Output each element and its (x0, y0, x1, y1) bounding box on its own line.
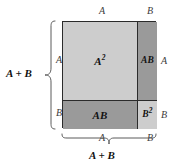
dimension-label-bottom-b: B (147, 133, 153, 143)
region-b-squared-label: B2 (142, 110, 153, 120)
region-ab-bottom: AB (63, 100, 137, 129)
algebraic-square-figure: A B A2 AB AB B2 A B A B A + B A B (0, 0, 181, 166)
dimension-label-right-a: A (161, 56, 167, 66)
region-ab-right-label: AB (141, 56, 154, 66)
region-a-squared-label: A2 (94, 56, 106, 67)
bottom-brace (61, 133, 157, 145)
sum-label-bottom: A + B (89, 150, 115, 161)
composite-square: A2 AB AB B2 (62, 21, 156, 128)
sum-label-left: A + B (6, 68, 32, 79)
region-ab-bottom-label: AB (92, 110, 107, 121)
dimension-label-left-b: B (56, 108, 62, 118)
dimension-label-left-a: A (56, 55, 62, 65)
region-b-squared: B2 (137, 100, 157, 129)
dimension-label-bottom-a: A (99, 133, 105, 143)
region-ab-right: AB (137, 22, 157, 100)
dimension-label-right-b: B (161, 110, 167, 120)
dimension-label-top-b: B (147, 6, 153, 16)
dimension-label-top-a: A (99, 6, 105, 16)
left-brace (44, 20, 56, 130)
region-a-squared: A2 (63, 22, 137, 100)
